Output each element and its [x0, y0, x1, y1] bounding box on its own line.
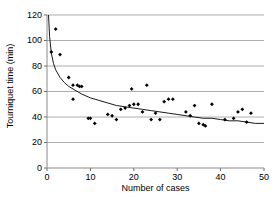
- data-point: [54, 27, 58, 31]
- data-point: [245, 120, 249, 124]
- data-point: [197, 121, 201, 125]
- y-axis-title: Tourniquet time (min): [3, 6, 17, 166]
- x-tick-label: 20: [122, 173, 146, 182]
- data-point: [132, 102, 136, 106]
- data-point: [93, 121, 97, 125]
- data-point: [240, 107, 244, 111]
- data-point: [171, 97, 175, 101]
- data-point: [162, 100, 166, 104]
- x-tick-label: 30: [165, 173, 189, 182]
- data-point: [49, 50, 53, 54]
- y-tick-label: 0: [18, 164, 42, 173]
- data-points: [49, 27, 252, 128]
- data-point: [193, 104, 197, 108]
- data-point: [136, 102, 140, 106]
- x-tick-label: 0: [35, 173, 59, 182]
- gridlines: [47, 15, 264, 143]
- data-point: [71, 97, 75, 101]
- scatter-chart: Tourniquet time (min) Number of cases 02…: [0, 0, 279, 200]
- data-point: [141, 110, 145, 114]
- data-point: [106, 113, 110, 117]
- x-tick-label: 10: [78, 173, 102, 182]
- data-point: [119, 107, 123, 111]
- y-tick-label: 120: [18, 11, 42, 20]
- data-point: [80, 85, 84, 89]
- x-tick-label: 40: [209, 173, 233, 182]
- trend-line: [49, 15, 264, 123]
- data-point: [145, 83, 149, 87]
- y-tick-label: 80: [18, 62, 42, 71]
- data-point: [130, 87, 134, 91]
- y-tick-label: 100: [18, 36, 42, 45]
- data-point: [184, 110, 188, 114]
- data-point: [223, 118, 227, 122]
- data-point: [167, 97, 171, 101]
- data-point: [115, 118, 119, 122]
- data-point: [249, 111, 253, 115]
- y-tick-label: 60: [18, 87, 42, 96]
- data-point: [158, 118, 162, 122]
- data-point: [149, 118, 153, 122]
- x-tick-label: 50: [252, 173, 276, 182]
- data-point: [71, 83, 75, 87]
- y-tick-label: 40: [18, 113, 42, 122]
- data-point: [67, 76, 71, 80]
- data-point: [58, 53, 62, 57]
- data-point: [210, 102, 214, 106]
- y-tick-label: 20: [18, 138, 42, 147]
- data-point: [236, 110, 240, 114]
- x-axis-title: Number of cases: [47, 183, 264, 193]
